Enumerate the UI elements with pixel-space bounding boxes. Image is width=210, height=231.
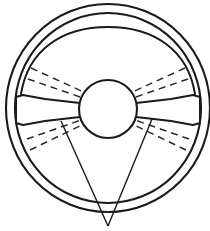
steering-wheel-drawing bbox=[0, 0, 210, 231]
hub-circle bbox=[79, 80, 137, 138]
steering-wheel-figure bbox=[0, 0, 210, 231]
